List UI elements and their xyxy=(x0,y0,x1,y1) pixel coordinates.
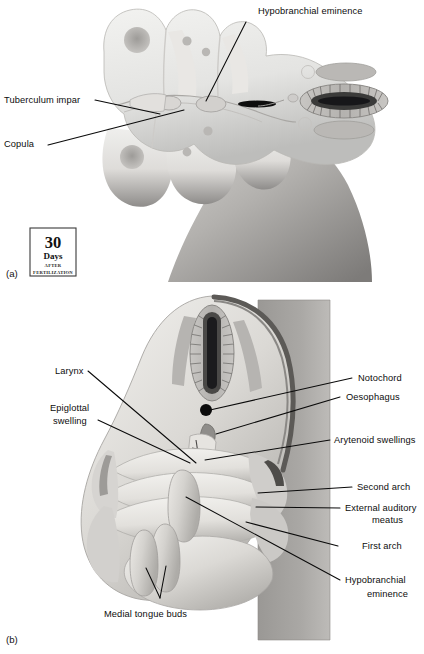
panel-a-muscle-ventral xyxy=(314,121,374,139)
anatomical-figure: Hypobranchial eminence Tuberculum impar … xyxy=(0,0,424,654)
panel-a-muscle-dorsal xyxy=(316,63,376,81)
age-badge-unit: Days xyxy=(43,251,62,261)
panel-a-id: (a) xyxy=(6,268,18,279)
label-hypobranchial-eminence-b-line1: Hypobranchial xyxy=(345,575,406,585)
label-medial-tongue-buds: Medial tongue buds xyxy=(104,609,187,619)
panel-a-pit-small-3 xyxy=(203,126,212,135)
panel-a-pit-small-4 xyxy=(183,148,192,157)
label-arytenoid-swellings: Arytenoid swellings xyxy=(334,435,416,445)
panel-a-neural-lumen xyxy=(318,96,370,105)
label-notochord: Notochord xyxy=(358,373,402,383)
label-first-arch: First arch xyxy=(362,541,402,551)
label-copula-a: Copula xyxy=(4,139,35,149)
age-badge-number: 30 xyxy=(45,233,62,252)
panel-a-pit-small-1 xyxy=(182,36,191,45)
panel-a-connector-nodule xyxy=(288,94,298,102)
panel-b-id: (b) xyxy=(6,634,18,645)
label-hypobranchial-eminence-b-line2: eminence xyxy=(367,589,408,599)
panel-b-neural-lumen xyxy=(207,317,217,389)
panel-a-pit-upper-left xyxy=(124,27,150,53)
label-external-auditory-meatus-line1: External auditory xyxy=(345,503,417,513)
age-badge-fertilization: FERTILIZATION xyxy=(33,270,73,275)
label-oesophagus: Oesophagus xyxy=(346,392,400,402)
label-epiglottal-swelling-line1: Epiglottal xyxy=(50,403,89,413)
panel-a-pit-lower-left xyxy=(120,145,144,169)
label-hypobranchial-eminence-a: Hypobranchial eminence xyxy=(258,6,363,16)
age-badge-after: AFTER xyxy=(45,263,62,268)
panel-a-hypobranchial-eminence-shape xyxy=(196,96,226,112)
label-tuberculum-impar-a: Tuberculum impar xyxy=(4,95,80,105)
label-epiglottal-swelling-line2: swelling xyxy=(53,416,87,426)
age-badge: 30 Days AFTER FERTILIZATION xyxy=(30,228,76,276)
label-external-auditory-meatus-line2: meatus xyxy=(372,515,403,525)
label-larynx: Larynx xyxy=(55,366,84,376)
panel-b-medial-tongue-bud-left xyxy=(130,530,158,596)
panel-a-pit-small-2 xyxy=(202,48,210,56)
label-second-arch: Second arch xyxy=(357,482,410,492)
